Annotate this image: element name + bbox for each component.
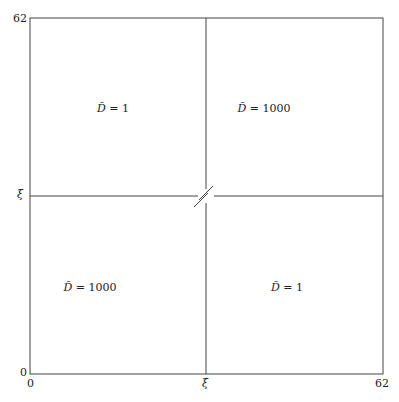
y-tick-xi: ξ (17, 188, 23, 201)
region-bottom-left-label: D̃ = 1000 (63, 281, 116, 294)
x-tick-left: 0 (27, 377, 34, 390)
region-bottom-right-label: D̃ = 1 (271, 281, 303, 294)
domain-diagram (0, 0, 399, 402)
region-top-left-label: D̃ = 1 (97, 102, 129, 115)
region-top-right-label: D̃ = 1000 (237, 102, 290, 115)
y-tick-bottom: 0 (20, 366, 27, 379)
y-tick-top: 62 (13, 12, 27, 25)
x-tick-right: 62 (375, 377, 389, 390)
x-tick-xi: ξ (202, 377, 208, 390)
